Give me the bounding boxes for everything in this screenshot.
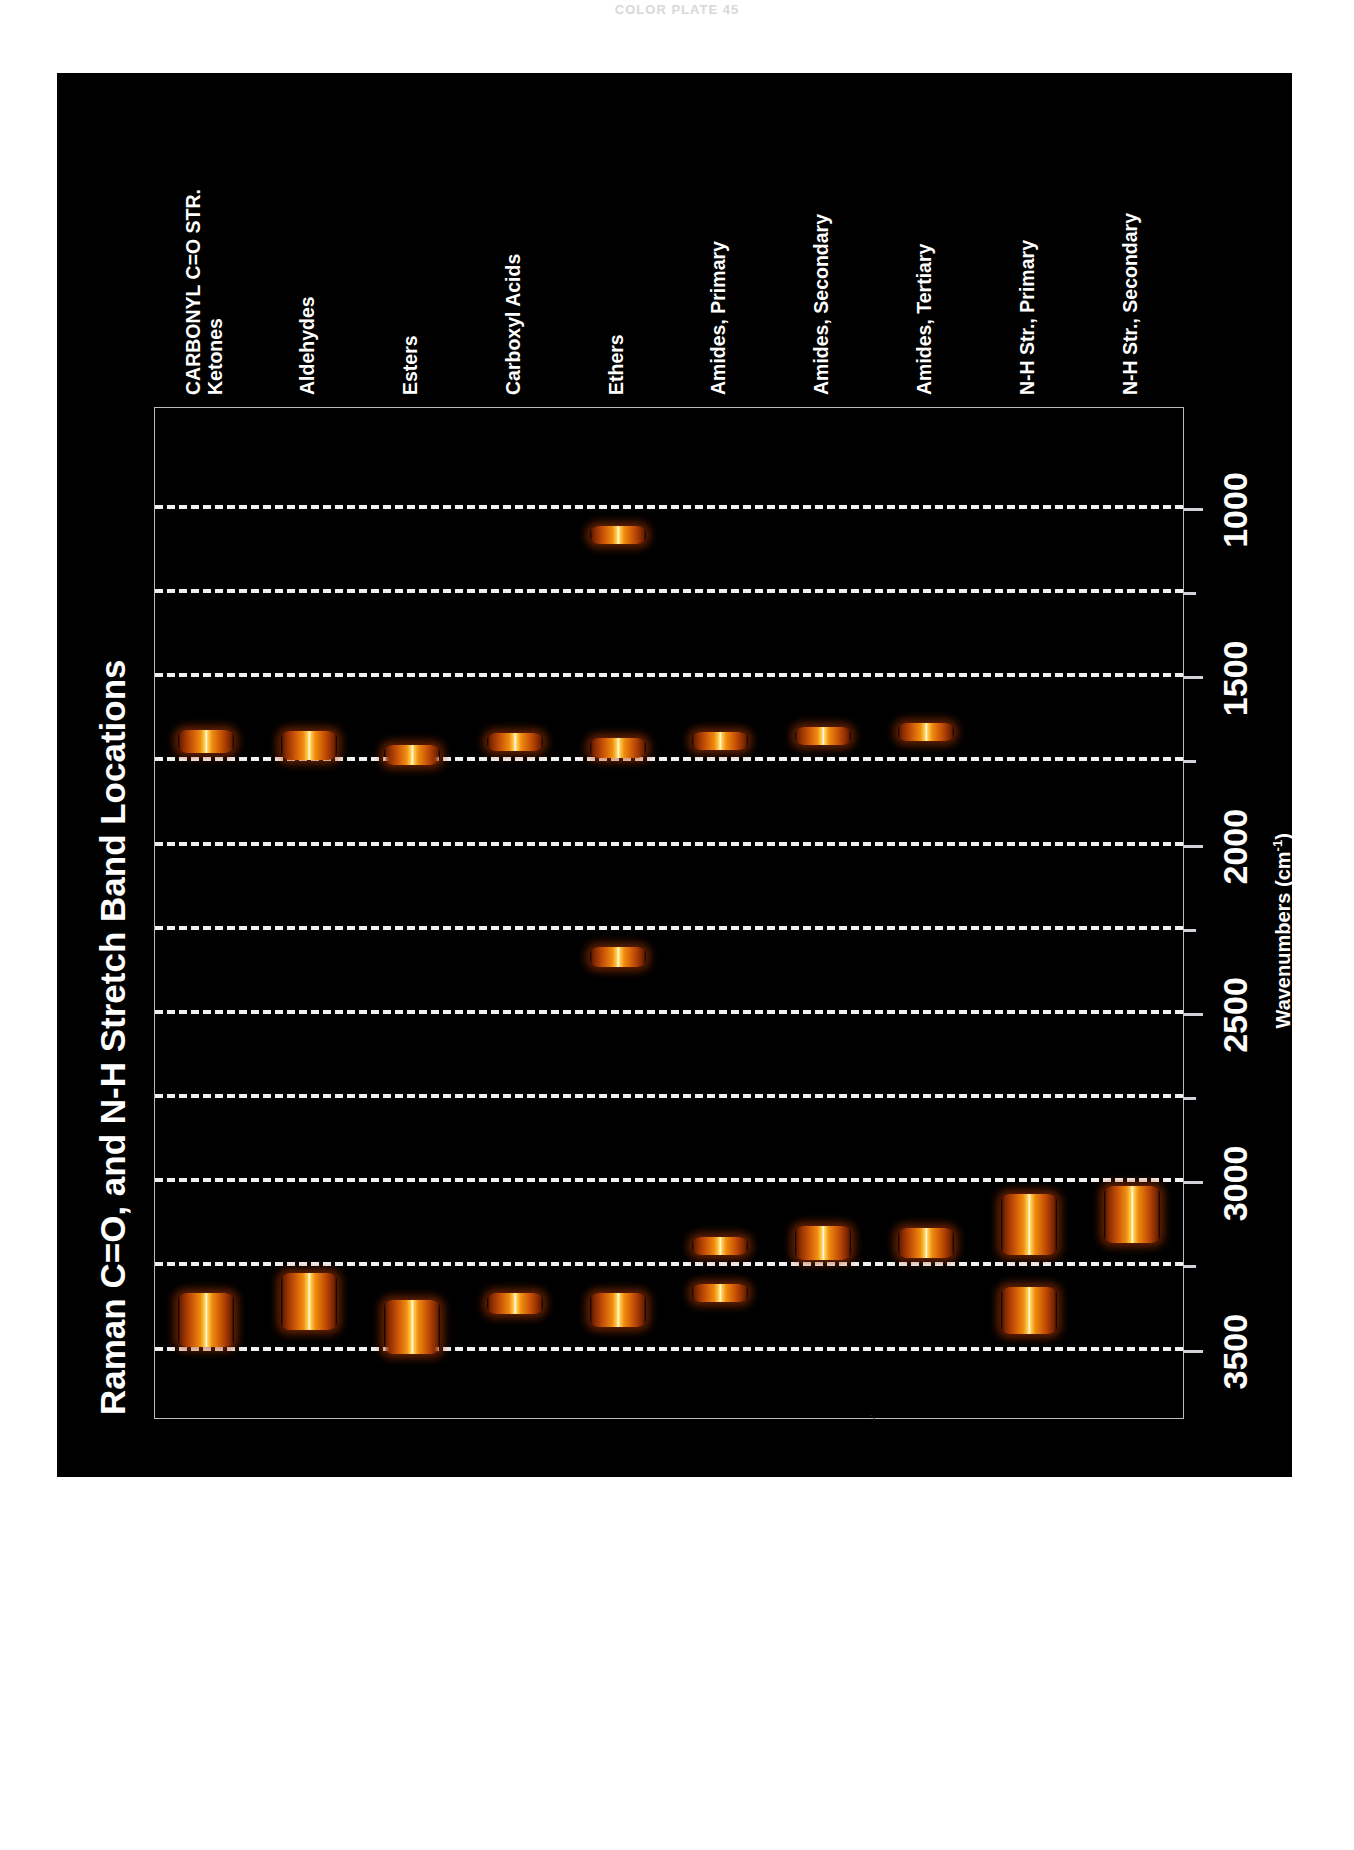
- category-label-line2: Amides, Primary: [708, 65, 730, 395]
- chart-figure: Raman C=O, and N-H Stretch Band Location…: [57, 73, 1292, 1477]
- category-label: N-H Str., Secondary: [1120, 65, 1142, 395]
- category-label: Ethers: [606, 65, 628, 395]
- page-artifact: ·,: [869, 1409, 876, 1421]
- category-label-line2: Carboxyl Acids: [503, 65, 525, 395]
- category-label: CARBONYL C=O STR.Ketones: [184, 65, 228, 395]
- category-label-line2: N-H Str., Primary: [1017, 65, 1039, 395]
- figure-panel: Raman C=O, and N-H Stretch Band Location…: [57, 73, 1292, 1477]
- rotated-figure-wrapper: Raman C=O, and N-H Stretch Band Location…: [57, 73, 1292, 1477]
- category-label: Amides, Secondary: [811, 65, 833, 395]
- plate-caption: COLOR PLATE 45: [0, 2, 1354, 17]
- category-label-line2: Esters: [400, 65, 422, 395]
- category-label: Amides, Tertiary: [914, 65, 936, 395]
- category-label: Aldehydes: [297, 65, 319, 395]
- category-axis-labels: CARBONYL C=O STR.KetonesAldehydesEstersC…: [57, 73, 1292, 1477]
- category-label: Amides, Primary: [708, 65, 730, 395]
- category-label: Carboxyl Acids: [503, 65, 525, 395]
- category-label-line2: Ethers: [606, 65, 628, 395]
- category-label-line2: Aldehydes: [297, 65, 319, 395]
- category-label-line2: Amides, Tertiary: [914, 65, 936, 395]
- category-label-line2: Amides, Secondary: [811, 65, 833, 395]
- category-label-line2: N-H Str., Secondary: [1120, 65, 1142, 395]
- poster-page: COLOR PLATE 45 Raman C=O, and N-H Stretc…: [0, 0, 1354, 1850]
- category-label-line1: CARBONYL C=O STR.: [184, 65, 206, 395]
- category-label: N-H Str., Primary: [1017, 65, 1039, 395]
- category-label: Esters: [400, 65, 422, 395]
- category-label-line2: Ketones: [205, 65, 227, 395]
